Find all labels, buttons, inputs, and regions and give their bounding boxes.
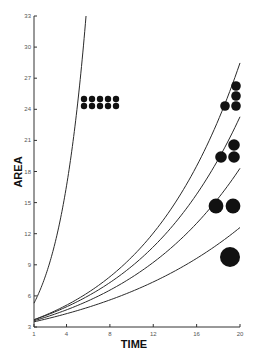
dot [81, 96, 87, 102]
x-tick-label: 20 [237, 331, 244, 337]
y-axis: 3691215182124273033 [24, 13, 37, 330]
dot-group-4 [220, 81, 241, 111]
x-axis-title: TIME [121, 338, 147, 350]
y-axis-title: AREA [12, 156, 24, 187]
y-tick-label: 33 [24, 13, 31, 19]
x-axis: 148121620 [32, 324, 244, 337]
dot [231, 91, 241, 101]
curves [34, 16, 240, 322]
dot [89, 103, 95, 109]
dot [113, 103, 119, 109]
y-tick-label: 21 [24, 137, 31, 143]
dot [209, 199, 224, 214]
curve-line-2 [34, 63, 240, 320]
dot [105, 96, 111, 102]
x-tick-label: 1 [32, 331, 36, 337]
dot [89, 96, 95, 102]
y-tick-label: 24 [24, 106, 31, 112]
y-tick-label: 30 [24, 44, 31, 50]
dot [226, 199, 241, 214]
dot [215, 151, 227, 163]
dot [228, 151, 240, 163]
y-tick-label: 3 [28, 324, 32, 330]
x-tick-label: 12 [150, 331, 157, 337]
dot [97, 96, 103, 102]
y-tick-label: 18 [24, 169, 31, 175]
x-tick-label: 4 [65, 331, 69, 337]
dot [228, 139, 240, 151]
curve-line-1 [34, 16, 86, 303]
y-tick-label: 15 [24, 200, 31, 206]
dot [231, 81, 241, 91]
dot [231, 101, 241, 111]
x-tick-label: 8 [108, 331, 112, 337]
area-vs-time-chart: 3691215182124273033 148121620 AREA TIME [0, 0, 255, 358]
dot-grid-10 [81, 96, 119, 109]
dot [220, 247, 240, 267]
dot [105, 103, 111, 109]
dot-group-1 [220, 247, 240, 267]
y-tick-label: 9 [28, 262, 32, 268]
y-tick-label: 27 [24, 75, 31, 81]
dot [113, 96, 119, 102]
dot [220, 101, 230, 111]
dot-group-2 [209, 199, 241, 214]
y-tick-label: 6 [28, 293, 32, 299]
y-tick-label: 12 [24, 231, 31, 237]
curve-line-4 [34, 168, 240, 320]
x-tick-label: 16 [193, 331, 200, 337]
dot [81, 103, 87, 109]
dot [97, 103, 103, 109]
